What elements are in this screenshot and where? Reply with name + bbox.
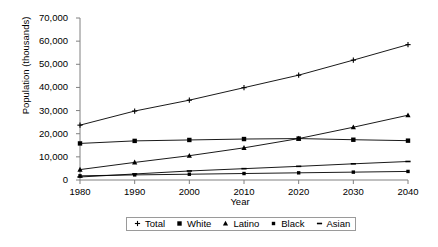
y-tick-label: 20,000 — [22, 128, 68, 139]
y-tick-label: 0 — [22, 174, 68, 185]
x-tick-label: 1990 — [115, 186, 155, 197]
data-point-total — [77, 123, 82, 128]
data-point-black — [242, 172, 245, 175]
legend-item-asian[interactable]: Asian — [314, 218, 351, 229]
legend-label: White — [187, 218, 211, 229]
y-tick-label: 70,000 — [22, 12, 68, 23]
data-point-white — [78, 141, 82, 145]
y-tick-label: 50,000 — [22, 58, 68, 69]
y-tick-label: 40,000 — [22, 81, 68, 92]
y-tick-label: 10,000 — [22, 151, 68, 162]
data-point-black — [188, 173, 191, 176]
x-tick-label: 2000 — [169, 186, 209, 197]
legend-item-white[interactable]: White — [174, 218, 211, 229]
legend-marker-black-icon — [268, 218, 279, 229]
data-point-black — [297, 171, 300, 174]
legend-item-total[interactable]: Total — [132, 218, 165, 229]
data-point-latino — [405, 112, 410, 117]
x-axis-title: Year — [70, 196, 410, 207]
data-point-white — [242, 137, 246, 141]
data-point-total — [296, 73, 301, 78]
x-axis-ticks — [80, 180, 408, 184]
legend-marker-total-icon — [132, 218, 143, 229]
legend-marker-latino-icon — [220, 218, 231, 229]
data-point-total — [405, 42, 410, 47]
data-point-total — [241, 85, 246, 90]
y-tick-label: 30,000 — [22, 105, 68, 116]
chart-legend: TotalWhiteLatinoBlackAsian — [126, 217, 356, 231]
x-tick-label: 2040 — [388, 186, 428, 197]
data-point-total — [132, 108, 137, 113]
x-tick-label: 1980 — [60, 186, 100, 197]
legend-label: Total — [145, 218, 165, 229]
legend-marker-asian-icon — [314, 218, 325, 229]
y-tick-label: 60,000 — [22, 35, 68, 46]
x-tick-label: 2010 — [224, 186, 264, 197]
data-point-white — [187, 138, 191, 142]
axis-lines — [80, 18, 408, 180]
data-point-total — [351, 58, 356, 63]
x-tick-label: 2020 — [279, 186, 319, 197]
legend-item-latino[interactable]: Latino — [220, 218, 259, 229]
chart-figure: Population (thousands) Year 010,00020,00… — [0, 0, 438, 247]
data-series-group — [77, 42, 410, 178]
series-line-latino — [80, 115, 408, 169]
data-point-black — [406, 170, 409, 173]
legend-label: Asian — [327, 218, 351, 229]
x-tick-label: 2030 — [333, 186, 373, 197]
legend-item-black[interactable]: Black — [268, 218, 304, 229]
data-point-white — [132, 139, 136, 143]
y-axis-ticks — [76, 18, 80, 180]
data-point-black — [352, 170, 355, 173]
data-point-white — [351, 138, 355, 142]
legend-label: Black — [281, 218, 304, 229]
data-point-white — [406, 138, 410, 142]
legend-label: Latino — [233, 218, 259, 229]
legend-marker-white-icon — [174, 218, 185, 229]
series-line-total — [80, 45, 408, 126]
data-point-total — [187, 98, 192, 103]
